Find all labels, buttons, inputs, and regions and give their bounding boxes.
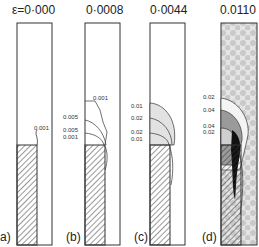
panel-c-label: (c) — [134, 230, 148, 244]
svg-text:0.001: 0.001 — [93, 95, 109, 101]
panel-a: 0.001 — [17, 23, 52, 245]
panel-b: 0.001 0.005 0.005 0.001 — [63, 23, 120, 245]
svg-text:0.02: 0.02 — [203, 129, 215, 135]
svg-text:0.001: 0.001 — [34, 125, 50, 131]
svg-text:0.005: 0.005 — [63, 127, 79, 133]
svg-text:0.01: 0.01 — [131, 103, 143, 109]
figure-canvas: 0.001 0.001 0.005 0.005 0.001 0.01 0.02 … — [0, 0, 259, 247]
panel-d: 0.02 0.04 0.04 0.02 — [203, 23, 257, 245]
panel-b-label: (b) — [66, 230, 81, 244]
svg-text:0.001: 0.001 — [63, 134, 79, 140]
svg-text:0.01: 0.01 — [131, 136, 143, 142]
svg-text:0.02: 0.02 — [131, 115, 143, 121]
svg-text:0.02: 0.02 — [131, 129, 143, 135]
svg-text:0.005: 0.005 — [63, 114, 79, 120]
panel-c: 0.01 0.02 0.02 0.01 — [131, 23, 185, 245]
svg-text:0.04: 0.04 — [203, 107, 215, 113]
svg-text:0.02: 0.02 — [203, 94, 215, 100]
panel-d-label: (d) — [202, 230, 217, 244]
panel-a-label: a) — [0, 230, 11, 244]
